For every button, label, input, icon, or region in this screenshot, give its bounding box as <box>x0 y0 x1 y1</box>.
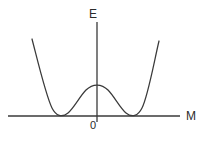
double-well-energy-figure: E M 0 <box>0 0 204 143</box>
origin-label: 0 <box>90 120 96 131</box>
plot-canvas <box>0 0 204 143</box>
double-well-curve <box>32 39 159 116</box>
y-axis-label: E <box>89 8 97 20</box>
x-axis-label: M <box>186 110 196 122</box>
